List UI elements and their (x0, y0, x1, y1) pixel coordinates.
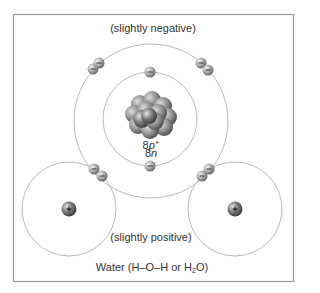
neutrons-label: 8n (145, 148, 157, 159)
hydrogen-left-proton (62, 202, 77, 217)
molecule-caption: Water (H–O–H or H2O) (96, 261, 208, 274)
slightly-positive-label: (slightly positive) (110, 231, 191, 243)
protons-charge: + (155, 138, 160, 147)
electron-inner-top (145, 67, 156, 78)
slightly-negative-label: (slightly negative) (110, 22, 196, 34)
caption-prefix: Water (H–O–H or H (96, 261, 192, 273)
neutrons-symbol: n (151, 147, 157, 159)
caption-suffix: O) (196, 261, 208, 273)
electron-inner-bottom (145, 161, 156, 172)
hydrogen-right-proton (228, 202, 243, 217)
